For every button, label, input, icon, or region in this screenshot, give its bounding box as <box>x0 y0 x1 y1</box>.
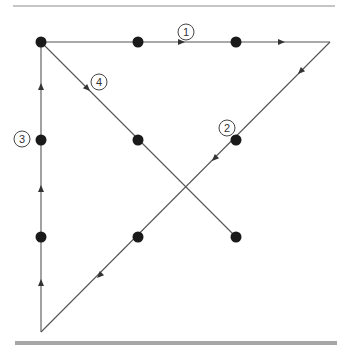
bottom-rule <box>15 341 337 345</box>
step-label-4-text: 4 <box>96 76 102 88</box>
dot <box>36 37 47 48</box>
step-label-2: 2 <box>219 120 235 136</box>
arrow-up-icon <box>38 83 44 90</box>
segments <box>41 42 330 332</box>
dot <box>231 232 242 243</box>
dot <box>36 232 47 243</box>
arrow-right-icon <box>278 39 285 45</box>
arrow-up-icon <box>38 279 44 286</box>
step-label-3-text: 3 <box>19 133 25 145</box>
dot <box>231 135 242 146</box>
arrowheads <box>38 39 305 286</box>
dot <box>231 37 242 48</box>
step-label-3: 3 <box>14 131 30 147</box>
dot <box>133 37 144 48</box>
arrow-down-left-icon <box>95 271 104 280</box>
dot <box>133 135 144 146</box>
step-label-1-text: 1 <box>183 26 189 38</box>
dot <box>133 232 144 243</box>
step-label-1: 1 <box>178 24 194 40</box>
step-label-4: 4 <box>91 74 107 90</box>
arrow-up-icon <box>38 185 44 192</box>
dot <box>36 135 47 146</box>
nine-dot-diagram: 1 2 3 4 <box>0 0 348 358</box>
step-label-2-text: 2 <box>224 122 230 134</box>
